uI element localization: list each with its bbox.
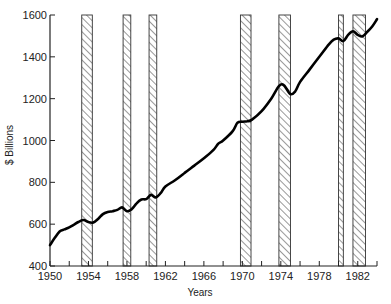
x-tick-label: 1970	[230, 270, 254, 282]
x-tick-label: 1962	[153, 270, 177, 282]
recession-band	[123, 15, 131, 266]
y-tick-label: 1000	[23, 135, 47, 147]
x-tick-label: 1966	[192, 270, 216, 282]
data-series	[50, 19, 377, 245]
recession-band	[279, 15, 291, 266]
y-tick-label: 1400	[23, 51, 47, 63]
x-tick-label: 1978	[307, 270, 331, 282]
recession-band	[240, 15, 251, 266]
recession-band	[82, 15, 93, 266]
y-tick-label: 600	[29, 218, 47, 230]
x-axis-title: Years	[187, 287, 212, 298]
gnp-line-chart: 4006008001000120014001600195019541958196…	[0, 0, 391, 304]
y-tick-label: 800	[29, 176, 47, 188]
gnp-line	[50, 19, 377, 245]
x-tick-label: 1974	[269, 270, 293, 282]
recession-band	[339, 15, 344, 266]
x-tick-label: 1982	[346, 270, 370, 282]
x-tick-label: 1950	[38, 270, 62, 282]
recession-band	[353, 15, 366, 266]
x-tick-label: 1954	[76, 270, 100, 282]
y-axis-title: $ Billions	[4, 125, 15, 165]
recession-band	[149, 15, 157, 266]
y-tick-label: 1200	[23, 93, 47, 105]
y-tick-label: 1600	[23, 9, 47, 21]
x-tick-label: 1958	[115, 270, 139, 282]
